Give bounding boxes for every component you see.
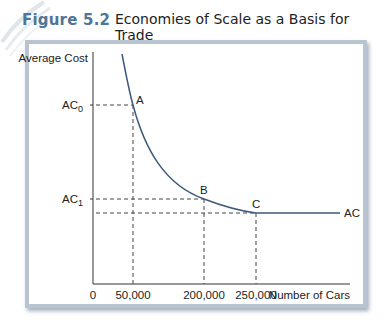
- curve-ac-label: AC: [344, 207, 360, 219]
- guide-lines: [96, 105, 256, 284]
- x-tick-200000: 200,000: [183, 289, 225, 301]
- point-a-label: A: [136, 94, 144, 106]
- point-b-label: B: [200, 184, 208, 196]
- x-axis-label: Number of Cars: [269, 289, 350, 301]
- x-tick-50000: 50,000: [115, 289, 150, 301]
- ac1-label: AC1: [62, 193, 83, 208]
- y-axis-label: Average Cost: [19, 52, 89, 64]
- point-c-label: C: [252, 198, 260, 210]
- average-cost-curve: [122, 54, 340, 213]
- ac0-label: AC0: [62, 99, 83, 114]
- chart-plot: Average Cost AC0 AC1 A B C AC 0 50,000 2…: [0, 0, 388, 323]
- x-tick-0: 0: [90, 289, 96, 301]
